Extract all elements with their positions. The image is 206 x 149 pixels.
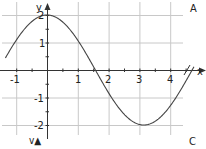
- x-tick-label: 4: [167, 74, 173, 85]
- x-tick-label: 2: [105, 74, 111, 85]
- corner-label-a: A: [190, 3, 197, 14]
- x-tick-label: 3: [136, 74, 142, 85]
- y-tick-label: 1: [39, 38, 45, 49]
- x-tick-label: 1: [75, 74, 81, 85]
- y-tick-label: -2: [34, 120, 44, 131]
- axes: [0, 3, 206, 139]
- y-tick-label: -1: [34, 93, 44, 104]
- cosine-chart: [0, 0, 206, 149]
- y-tick-label: 2: [38, 10, 44, 21]
- x-axis-label: x: [197, 66, 203, 77]
- corner-label-c: C: [189, 136, 196, 147]
- x-tick-label: -1: [10, 74, 20, 85]
- bottom-marker-label: v▲: [29, 136, 41, 146]
- grid: [2, 2, 183, 135]
